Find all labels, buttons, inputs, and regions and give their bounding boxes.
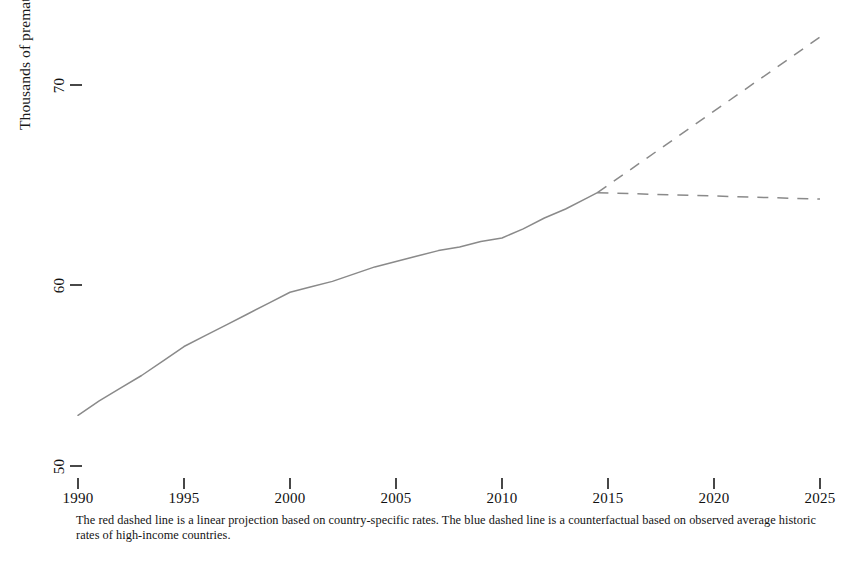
- y-tick-label-60: 60: [51, 271, 68, 301]
- x-tick-label-2025: 2025: [790, 490, 850, 507]
- y-axis-title: Thousands of premature deaths: [16, 0, 34, 130]
- line-chart-canvas: [0, 0, 867, 568]
- axis-tick-marks: [70, 85, 820, 489]
- x-tick-label-1995: 1995: [154, 490, 214, 507]
- chart-caption: The red dashed line is a linear projecti…: [76, 513, 842, 543]
- series-observed-line: [78, 193, 597, 416]
- chart-figure: Thousands of premature deaths 70 60 50 1…: [0, 0, 867, 568]
- x-tick-label-2020: 2020: [684, 490, 744, 507]
- y-tick-label-70: 70: [51, 71, 68, 101]
- x-tick-label-1990: 1990: [48, 490, 108, 507]
- series-layer: [78, 37, 820, 415]
- y-tick-label-50: 50: [51, 452, 68, 482]
- series-counterfactual-dashed-line: [597, 193, 820, 199]
- x-tick-label-2010: 2010: [472, 490, 532, 507]
- x-tick-label-2000: 2000: [260, 490, 320, 507]
- series-projection-dashed-line: [597, 37, 820, 193]
- x-tick-label-2005: 2005: [366, 490, 426, 507]
- x-tick-label-2015: 2015: [578, 490, 638, 507]
